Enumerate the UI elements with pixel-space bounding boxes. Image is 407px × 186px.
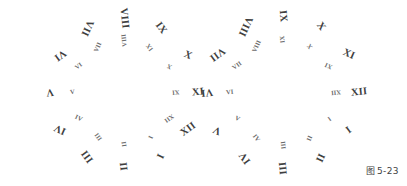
numeral-label: IX (277, 9, 289, 22)
numeral-label: I (147, 135, 154, 140)
numeral-label: II (118, 161, 129, 171)
numeral-label: III (79, 148, 95, 165)
numeral-label: VII (79, 18, 95, 37)
numeral-label: XII (163, 112, 175, 123)
caption-mark: 图 (366, 164, 375, 177)
numeral-label: V (211, 124, 222, 137)
numeral-label: X (305, 42, 313, 50)
numeral-label: V (46, 86, 55, 97)
numeral-label: VIII (118, 7, 131, 29)
numeral-label: IX (145, 42, 155, 52)
numeral-label: I (155, 152, 166, 160)
figure-canvas: IIIIIIIVVVIVIIVIIIIXXXIXIIIIIIIIIVVVIVII… (0, 0, 407, 186)
numeral-label: XI (172, 88, 180, 95)
numeral-label: XI (324, 61, 333, 70)
numeral-label: II (314, 152, 327, 164)
numeral-label: VIII (251, 39, 262, 53)
numeral-label: IV (252, 133, 262, 143)
numeral-label: IX (153, 20, 169, 36)
caption-number: 5-23 (377, 166, 399, 176)
numeral-label: VI (74, 61, 84, 71)
numeral-label: XI (341, 47, 356, 62)
numeral-label: I (344, 124, 354, 135)
numeral-label: VI (200, 86, 213, 98)
numeral-label: XII (178, 120, 197, 138)
numeral-label: II (305, 134, 313, 141)
numeral-label: X (314, 20, 327, 32)
numeral-label: VI (226, 88, 234, 95)
numeral-label: IX (279, 35, 286, 43)
numeral-label: V (69, 89, 74, 96)
figure-caption: 图5-23 (366, 164, 399, 177)
numeral-label: X (182, 49, 193, 62)
numeral-label: IV (52, 122, 67, 137)
numeral-label: III (93, 132, 103, 142)
numeral-label: VII (207, 45, 226, 63)
numeral-label: VIII (120, 33, 128, 46)
numeral-label: XII (331, 88, 342, 96)
numeral-label: III (279, 141, 286, 150)
numeral-label: XII (350, 86, 367, 98)
numeral-label: I (326, 115, 332, 122)
numeral-label: IV (74, 114, 83, 123)
numeral-label: V (234, 115, 241, 123)
numeral-label: VIII (236, 15, 254, 38)
numeral-label: VI (52, 47, 68, 63)
numeral-label: VII (93, 41, 103, 53)
numeral-label: II (121, 141, 128, 147)
numeral-label: III (277, 161, 289, 175)
numeral-label: X (166, 62, 173, 70)
numeral-label: VII (231, 60, 243, 71)
numeral-label: IV (237, 150, 253, 166)
